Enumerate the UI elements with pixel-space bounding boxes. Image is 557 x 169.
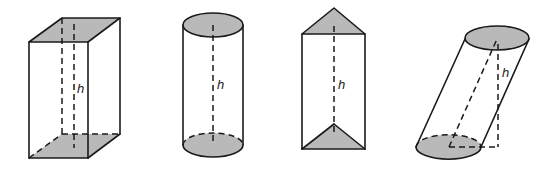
axis-line [449, 39, 497, 147]
height-label: h [502, 65, 509, 80]
height-label: h [217, 77, 224, 92]
top-base-face [465, 26, 529, 50]
height-label: h [77, 81, 84, 96]
triangular-prism: h [302, 8, 365, 149]
height-label: h [338, 77, 345, 92]
right-cylinder: h [183, 13, 243, 157]
solids-diagram: h h h h [0, 0, 557, 169]
rectangular-prism: h [29, 18, 120, 158]
oblique-cylinder: h [416, 26, 529, 159]
